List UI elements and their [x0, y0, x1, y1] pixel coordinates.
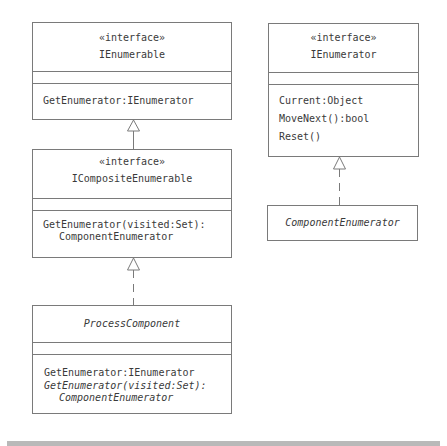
relationship-layer	[0, 0, 447, 446]
realization-arrow	[334, 157, 346, 205]
realization-arrow	[128, 258, 140, 305]
page-bottom-rule	[7, 441, 440, 446]
generalization-arrow	[128, 120, 140, 149]
